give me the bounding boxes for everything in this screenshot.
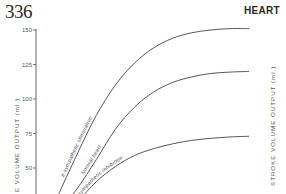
y-tick-label: 125	[22, 62, 33, 68]
y-tick-label: 75	[25, 131, 32, 137]
curve-labels: e sympathetic stimulationNormal heartsym…	[59, 115, 123, 194]
y-tick-label: 100	[22, 96, 33, 102]
curve-normal-heart	[58, 71, 249, 194]
y-tick-label: 150	[22, 27, 33, 33]
y-axis-title-left: E VOLUME OUTPUT (ml.)	[13, 98, 20, 192]
stroke-volume-chart: 5075100125150 e sympathetic stimulationN…	[0, 0, 286, 194]
y-axis-title-right: STROKE VOLUME OUTPUT (ml.)	[269, 66, 276, 186]
y-tick-label: 50	[25, 165, 32, 171]
y-axis: 5075100125150	[22, 27, 36, 194]
